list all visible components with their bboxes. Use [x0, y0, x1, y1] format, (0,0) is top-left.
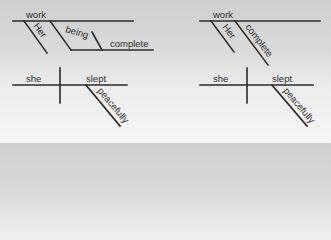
subject-word: work — [212, 9, 233, 20]
diagram-bottom-right: she slept peacefully — [200, 68, 318, 126]
adverb-word: peacefully — [281, 85, 317, 125]
complement-word: complete — [110, 38, 149, 49]
subject-word: work — [25, 9, 46, 20]
modifier-word: Her — [31, 21, 49, 40]
subject-word: she — [213, 73, 228, 84]
verb-word: slept — [272, 73, 292, 84]
sentence-diagrams: work Her being complete work Her complet… — [0, 0, 331, 143]
complement-slash — [92, 32, 102, 50]
diagram-bottom-left: she slept peacefully — [13, 68, 132, 126]
subject-word: she — [26, 73, 41, 84]
diagram-top-left: work Her being complete — [13, 9, 153, 53]
diagram-top-right: work Her complete — [200, 9, 320, 65]
participle-word: being — [64, 23, 89, 40]
verb-word: slept — [86, 73, 106, 84]
